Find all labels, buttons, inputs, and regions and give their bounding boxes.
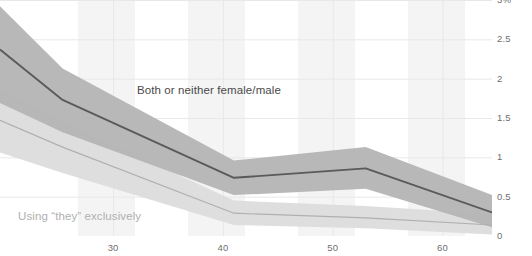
- x-axis: 30405060: [0, 236, 492, 256]
- plot-area: [0, 0, 492, 236]
- series-label-both: Both or neither female/male: [137, 85, 281, 97]
- series-label-they: Using “they” exclusively: [18, 211, 141, 223]
- chart-container: survey respondents by age Both or neithe…: [0, 0, 532, 256]
- y-tick-label: 0: [497, 231, 530, 241]
- y-tick-label: 0.5: [497, 192, 530, 202]
- y-tick-label: 1.5: [497, 113, 530, 123]
- y-tick-label: 3%: [497, 0, 530, 5]
- y-tick-label: 1: [497, 152, 530, 162]
- x-tick-label: 40: [203, 243, 243, 253]
- y-axis: 3%2.521.510.50: [497, 0, 532, 256]
- y-tick-label: 2: [497, 74, 530, 84]
- confidence-bands: [0, 6, 492, 234]
- x-tick-label: 30: [93, 243, 133, 253]
- plot-svg: [0, 0, 492, 236]
- y-tick-label: 2.5: [497, 34, 530, 44]
- x-tick-label: 50: [313, 243, 353, 253]
- x-tick-label: 60: [423, 243, 463, 253]
